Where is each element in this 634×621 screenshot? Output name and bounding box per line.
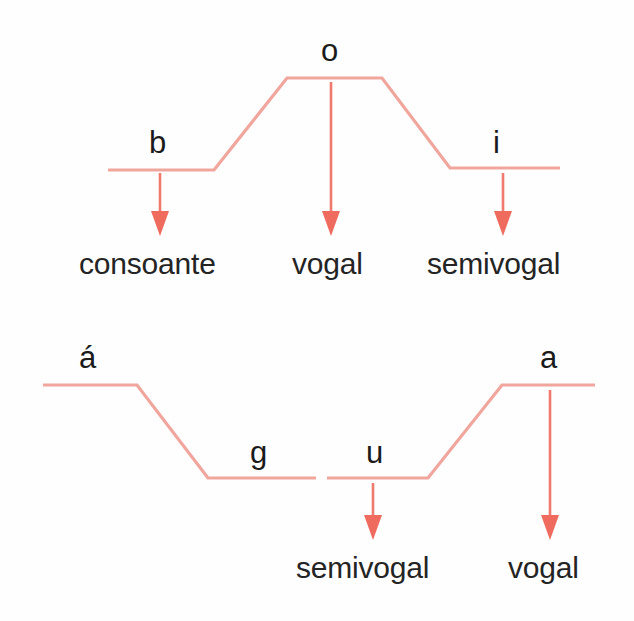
phoneme-label-g: g: [250, 437, 267, 468]
upper-arrow-semivogal: [494, 173, 512, 236]
term-label-semivogal-upper: semivogal: [427, 249, 560, 279]
term-label-consoante: consoante: [79, 249, 216, 279]
term-label-vogal-upper: vogal: [292, 249, 363, 279]
phoneme-label-u: u: [366, 437, 383, 468]
phoneme-label-a: a: [540, 342, 557, 373]
lower-contour-line-left: [43, 385, 316, 478]
sonority-diagram-figure: b o i consoante vogal semivogal á g u a …: [0, 0, 634, 621]
phoneme-label-a-acute: á: [79, 342, 96, 373]
diagram-canvas: [0, 0, 634, 621]
lower-arrow-semivogal: [364, 483, 382, 540]
phoneme-label-o: o: [321, 35, 338, 66]
term-label-vogal-lower: vogal: [508, 553, 579, 583]
phoneme-label-i: i: [493, 127, 500, 158]
upper-arrow-vogal: [322, 82, 340, 236]
phoneme-label-b: b: [149, 127, 166, 158]
lower-arrow-vogal: [541, 390, 559, 540]
upper-arrow-consoante: [151, 173, 169, 236]
term-label-semivogal-lower: semivogal: [296, 553, 429, 583]
